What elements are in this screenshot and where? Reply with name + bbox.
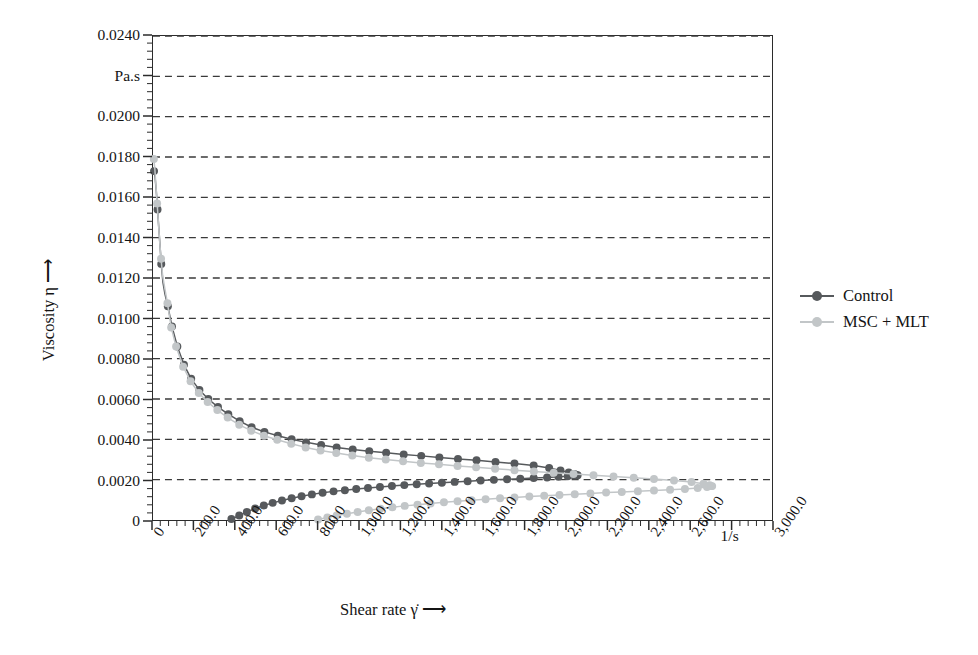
chart-legend: Control MSC + MLT [800, 283, 929, 335]
x-tick-label: 3,000.0 [771, 493, 811, 540]
legend-label-control: Control [843, 286, 893, 306]
legend-item-control[interactable]: Control [800, 283, 929, 309]
legend-swatch-msc-mlt [800, 315, 834, 329]
x-tick-label: 2,200.0 [605, 493, 645, 540]
x-tick-label: 800.0 [316, 502, 349, 539]
x-tick-label: 1,200.0 [398, 493, 438, 540]
legend-item-msc-mlt[interactable]: MSC + MLT [800, 309, 929, 335]
legend-label-msc-mlt: MSC + MLT [843, 312, 929, 332]
x-tick-label: 1,600.0 [481, 493, 521, 540]
x-tick-label: 0 [150, 524, 168, 540]
x-tick-label: 1,800.0 [523, 493, 563, 540]
x-axis-unit-label: 1/s [721, 527, 739, 545]
x-tick-label: 1,400.0 [440, 493, 480, 540]
x-axis-title: Shear rate γ̇ ⟶ [340, 600, 446, 620]
x-tick-label: 2,000.0 [564, 493, 604, 540]
x-tick-label: 2,400.0 [647, 493, 687, 540]
x-tick-label: 1,000.0 [357, 493, 397, 540]
legend-swatch-control [800, 289, 834, 303]
x-tick-label: 400.0 [233, 502, 266, 539]
x-tick-label: 600.0 [274, 502, 307, 539]
x-tick-label: 200.0 [191, 502, 224, 539]
chart-figure: Viscosity η ⟶ 00.00200.00400.00600.00800… [0, 0, 978, 655]
